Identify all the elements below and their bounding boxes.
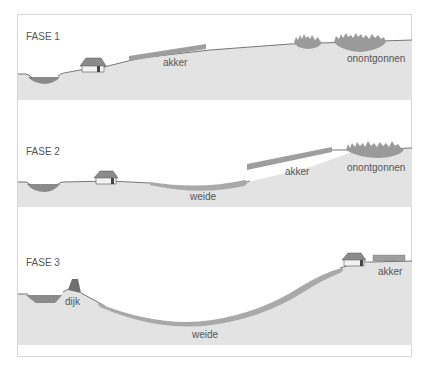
phase-label-3: FASE 3 xyxy=(26,257,60,268)
phase-label-1: FASE 1 xyxy=(26,31,60,42)
label-akker-2: akker xyxy=(285,166,310,177)
phase-label-2: FASE 2 xyxy=(26,146,60,157)
label-dijk: dijk xyxy=(65,296,81,307)
label-onontgonnen-2: onontgonnen xyxy=(347,162,405,173)
phase-2: FASE 2 weide akker onontgonnen xyxy=(18,141,412,207)
phase-3: FASE 3 dijk weide akker xyxy=(18,253,412,345)
house-icon xyxy=(342,253,366,266)
label-weide-3: weide xyxy=(191,329,219,340)
phase-1: FASE 1 akker onontgonnen xyxy=(18,31,412,100)
house-icon xyxy=(94,171,118,184)
label-akker-1: akker xyxy=(163,57,188,68)
house-icon xyxy=(80,58,106,72)
landscape-diagram: FASE 1 akker onontgonnen FASE 2 weide ak… xyxy=(0,0,425,371)
label-onontgonnen-1: onontgonnen xyxy=(347,53,405,64)
label-weide-2: weide xyxy=(189,191,217,202)
akker-strip-phase-3 xyxy=(373,255,405,261)
label-akker-3: akker xyxy=(378,266,403,277)
